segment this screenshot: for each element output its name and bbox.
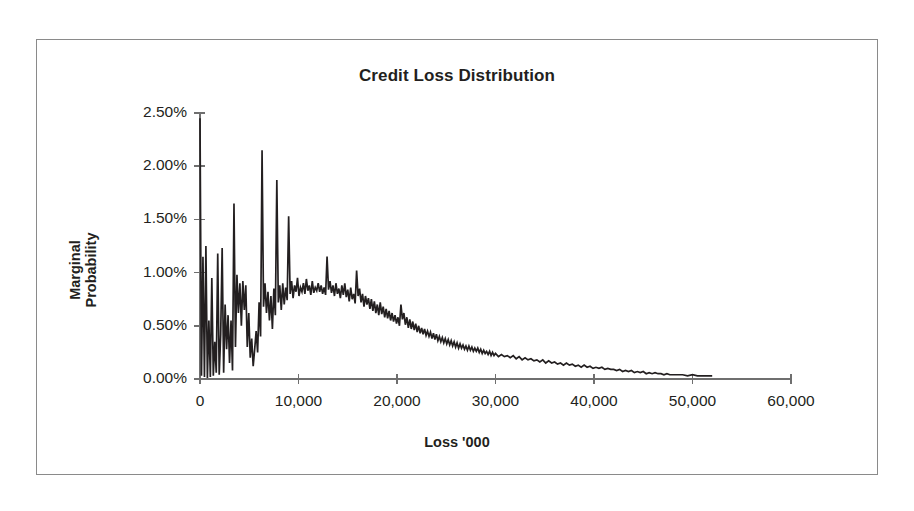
- y-tick-label: 1.00%: [143, 263, 187, 281]
- x-tick-label: 60,000: [731, 392, 851, 410]
- x-axis-title: Loss '000: [37, 434, 877, 450]
- y-tick-label: 0.00%: [143, 369, 187, 387]
- axes-group: [194, 113, 791, 384]
- chart-frame: Credit Loss Distribution Marginal Probab…: [36, 39, 878, 475]
- y-tick-label: 2.50%: [143, 103, 187, 121]
- y-tick-label: 0.50%: [143, 316, 187, 334]
- chart-page: Credit Loss Distribution Marginal Probab…: [0, 0, 914, 511]
- y-tick-label: 2.00%: [143, 156, 187, 174]
- data-series-group: [200, 118, 712, 378]
- data-line: [200, 118, 712, 378]
- y-tick-label: 1.50%: [143, 209, 187, 227]
